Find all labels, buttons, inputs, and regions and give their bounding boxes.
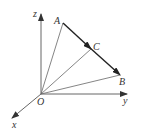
- diagram-canvas: z y x O A C B: [0, 0, 141, 133]
- point-O-label: O: [37, 96, 44, 107]
- vector-diagram: z y x O A C B: [0, 0, 141, 133]
- x-axis-label: x: [11, 119, 17, 130]
- point-B-label: B: [119, 76, 125, 87]
- segment-OC: [41, 49, 91, 94]
- segment-OB: [41, 75, 120, 94]
- point-A-label: A: [53, 15, 61, 26]
- y-axis-label: y: [122, 95, 128, 106]
- segment-OA: [41, 23, 63, 94]
- vector-AC: [63, 23, 89, 47]
- point-C-label: C: [93, 41, 100, 52]
- z-axis-label: z: [32, 8, 37, 19]
